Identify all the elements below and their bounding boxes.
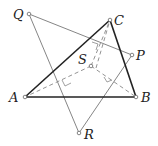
label-P: P bbox=[135, 48, 145, 63]
segment-RP bbox=[79, 55, 132, 133]
segment-QR bbox=[29, 14, 79, 133]
segment-CA bbox=[25, 20, 110, 97]
label-B: B bbox=[140, 90, 151, 105]
right-angle-mark-SA bbox=[62, 80, 71, 86]
label-C: C bbox=[114, 13, 124, 28]
geometry-diagram: Q C P S A B R bbox=[0, 0, 158, 146]
segment-SA bbox=[25, 66, 91, 97]
label-S: S bbox=[78, 52, 87, 67]
point-S bbox=[89, 64, 93, 68]
point-C bbox=[108, 18, 112, 22]
label-R: R bbox=[83, 127, 94, 142]
segment-BC bbox=[110, 20, 136, 97]
point-B bbox=[134, 95, 138, 99]
point-R bbox=[77, 131, 81, 135]
point-A bbox=[23, 95, 27, 99]
point-Q bbox=[27, 12, 31, 16]
label-A: A bbox=[8, 90, 18, 105]
point-P bbox=[130, 53, 134, 57]
right-angle-mark-SC bbox=[92, 42, 98, 50]
label-Q: Q bbox=[13, 7, 24, 22]
